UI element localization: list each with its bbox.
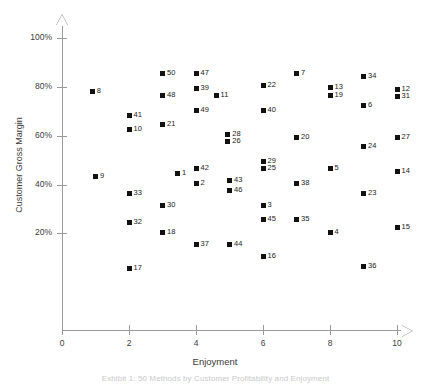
x-tick-label: 8 (315, 338, 345, 348)
data-point-label: 43 (234, 176, 242, 184)
scatter-plot-figure: 20%40%60%80%100% 0246810 894110333217504… (0, 0, 431, 384)
data-point-marker[interactable] (261, 166, 266, 171)
data-point-label: 5 (335, 164, 339, 172)
data-point-marker[interactable] (361, 74, 366, 79)
y-axis-title: Customer Gross Margin (14, 95, 24, 235)
data-point-marker[interactable] (227, 188, 232, 193)
data-point-label: 40 (268, 106, 276, 114)
data-point-marker[interactable] (395, 135, 400, 140)
data-point-marker[interactable] (395, 225, 400, 230)
data-point-marker[interactable] (261, 159, 266, 164)
x-tick-mark (62, 325, 63, 335)
data-point-label: 38 (301, 179, 309, 187)
data-point-label: 7 (301, 69, 305, 77)
y-axis-line (62, 22, 63, 331)
data-point-marker[interactable] (127, 266, 132, 271)
data-point-label: 4 (335, 228, 339, 236)
data-point-label: 48 (167, 91, 175, 99)
data-point-label: 30 (167, 201, 175, 209)
data-point-marker[interactable] (194, 108, 199, 113)
data-point-marker[interactable] (294, 181, 299, 186)
data-point-marker[interactable] (361, 191, 366, 196)
data-point-label: 50 (167, 69, 175, 77)
data-point-marker[interactable] (225, 139, 230, 144)
x-tick-label: 6 (248, 338, 278, 348)
data-point-marker[interactable] (361, 103, 366, 108)
x-tick-mark (263, 325, 264, 335)
data-point-marker[interactable] (261, 108, 266, 113)
data-point-label: 15 (402, 223, 410, 231)
data-point-marker[interactable] (294, 135, 299, 140)
x-tick-label: 2 (114, 338, 144, 348)
data-point-label: 33 (134, 189, 142, 197)
data-point-marker[interactable] (127, 113, 132, 118)
data-point-marker[interactable] (261, 217, 266, 222)
x-tick-mark (330, 325, 331, 335)
y-tick: 100% (0, 38, 62, 39)
data-point-marker[interactable] (328, 93, 333, 98)
data-point-label: 6 (368, 101, 372, 109)
data-point-marker[interactable] (194, 86, 199, 91)
data-point-marker[interactable] (127, 191, 132, 196)
data-point-marker[interactable] (261, 254, 266, 259)
data-point-label: 31 (402, 92, 410, 100)
y-tick-label: 20% (4, 228, 52, 237)
data-point-marker[interactable] (214, 93, 219, 98)
x-tick-mark (196, 325, 197, 335)
data-point-marker[interactable] (160, 203, 165, 208)
data-point-label: 22 (268, 81, 276, 89)
data-point-marker[interactable] (194, 181, 199, 186)
x-tick-mark (397, 325, 398, 335)
data-point-marker[interactable] (160, 122, 165, 127)
y-tick-label: 40% (4, 180, 52, 189)
plot-area: 20%40%60%80%100% 0246810 894110333217504… (0, 0, 431, 340)
data-point-label: 19 (335, 91, 343, 99)
x-axis-title: Enjoyment (150, 356, 280, 367)
y-tick-label: 100% (4, 33, 52, 42)
data-point-label: 8 (97, 87, 101, 95)
data-point-marker[interactable] (261, 83, 266, 88)
data-point-marker[interactable] (261, 203, 266, 208)
data-point-marker[interactable] (160, 93, 165, 98)
data-point-label: 45 (268, 215, 276, 223)
data-point-marker[interactable] (90, 89, 95, 94)
data-point-marker[interactable] (395, 94, 400, 99)
data-point-marker[interactable] (127, 127, 132, 132)
data-point-marker[interactable] (227, 242, 232, 247)
x-tick-label: 4 (181, 338, 211, 348)
data-point-marker[interactable] (328, 230, 333, 235)
data-point-marker[interactable] (328, 85, 333, 90)
data-point-marker[interactable] (175, 171, 180, 176)
data-point-marker[interactable] (93, 174, 98, 179)
data-point-marker[interactable] (361, 264, 366, 269)
x-axis-arrow-icon (402, 325, 413, 337)
data-point-marker[interactable] (194, 166, 199, 171)
y-tick: 20% (0, 233, 62, 234)
data-point-label: 20 (301, 133, 309, 141)
data-point-label: 26 (232, 137, 240, 145)
data-point-label: 24 (368, 142, 376, 150)
data-point-marker[interactable] (328, 166, 333, 171)
data-point-marker[interactable] (160, 230, 165, 235)
data-point-label: 37 (201, 240, 209, 248)
data-point-marker[interactable] (395, 169, 400, 174)
data-point-marker[interactable] (160, 71, 165, 76)
data-point-marker[interactable] (294, 71, 299, 76)
data-point-label: 21 (167, 120, 175, 128)
y-tick: 60% (0, 136, 62, 137)
data-point-marker[interactable] (395, 87, 400, 92)
data-point-label: 1 (182, 169, 186, 177)
data-point-label: 16 (268, 252, 276, 260)
data-point-marker[interactable] (194, 242, 199, 247)
data-point-marker[interactable] (194, 71, 199, 76)
data-point-label: 41 (134, 111, 142, 119)
data-point-marker[interactable] (225, 132, 230, 137)
data-point-marker[interactable] (127, 220, 132, 225)
data-point-label: 47 (201, 69, 209, 77)
data-point-marker[interactable] (294, 217, 299, 222)
data-point-label: 42 (201, 164, 209, 172)
data-point-marker[interactable] (227, 178, 232, 183)
x-tick-label: 10 (382, 338, 412, 348)
x-tick-label: 0 (47, 338, 77, 348)
data-point-marker[interactable] (361, 144, 366, 149)
